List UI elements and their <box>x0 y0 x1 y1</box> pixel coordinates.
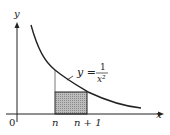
tick-label-n: n <box>52 117 58 128</box>
integral-test-diagram: y = 1 x² y x 0 n n + 1 <box>0 0 170 135</box>
tick-label-n-plus-1: n + 1 <box>74 117 102 128</box>
y-axis-arrow-icon <box>15 22 20 28</box>
y-axis-label: y <box>13 8 20 19</box>
x-axis-label: x <box>156 109 162 120</box>
equation-lhs: y = <box>76 66 96 79</box>
shaded-rectangle <box>55 92 87 114</box>
origin-label: 0 <box>9 117 15 128</box>
equation-denominator: x² <box>97 74 106 84</box>
equation-numerator: 1 <box>100 62 106 72</box>
label-pointer <box>67 76 73 80</box>
